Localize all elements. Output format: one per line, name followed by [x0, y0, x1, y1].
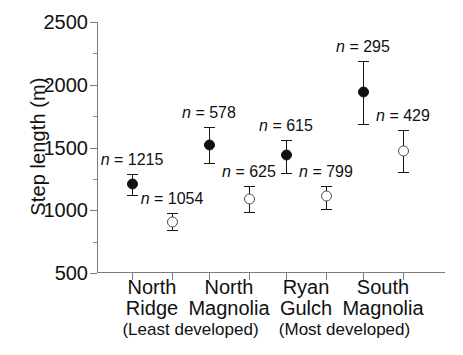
data-point-filled: n = 1215 [132, 22, 133, 273]
y-tick-label: 1500 [44, 136, 89, 159]
error-bar-cap-lower [204, 163, 215, 164]
y-minor-tick [93, 179, 97, 180]
y-tick-label: 1000 [44, 199, 89, 222]
category-label: RyanGulch [280, 277, 332, 319]
plot-area: 5001000150020002500 n = 1215n = 578n = 6… [97, 22, 445, 273]
y-axis-line [97, 22, 98, 273]
y-tick [90, 148, 97, 149]
error-bar-cap-upper [127, 174, 138, 175]
category-label-line: Magnolia [188, 298, 269, 319]
category-label: NorthRidge [126, 277, 178, 319]
y-tick [90, 85, 97, 86]
y-tick-label: 2000 [44, 73, 89, 96]
error-bar-cap-upper [167, 213, 178, 214]
y-minor-tick [93, 53, 97, 54]
error-bar-cap-upper [358, 61, 369, 62]
sample-size-label: n = 625 [222, 163, 276, 181]
data-point-filled: n = 295 [363, 22, 364, 273]
marker-filled-circle [127, 178, 138, 189]
data-point-open: n = 429 [403, 22, 404, 273]
error-bar-cap-lower [358, 124, 369, 125]
error-bar-cap-lower [398, 172, 409, 173]
error-bar-cap-upper [398, 130, 409, 131]
error-bar-cap-upper [321, 186, 332, 187]
development-annotation: (Least developed) [122, 320, 258, 340]
sample-size-label: n = 429 [376, 107, 430, 125]
marker-open-circle [398, 146, 409, 157]
data-point-filled: n = 615 [286, 22, 287, 273]
category-label: SouthMagnolia [342, 277, 423, 319]
data-point-filled: n = 578 [209, 22, 210, 273]
marker-filled-circle [204, 139, 215, 150]
error-bar-cap-lower [127, 195, 138, 196]
error-bar-cap-lower [281, 173, 292, 174]
y-tick-label: 500 [55, 262, 88, 285]
y-tick-label: 2500 [44, 11, 89, 34]
y-tick [90, 210, 97, 211]
error-bar-cap-upper [281, 140, 292, 141]
marker-open-circle [244, 193, 255, 204]
category-label: NorthMagnolia [188, 277, 269, 319]
development-annotation: (Most developed) [279, 320, 410, 340]
category-label-line: South [342, 277, 423, 298]
sample-size-label: n = 578 [182, 104, 236, 122]
marker-filled-circle [358, 86, 369, 97]
figure: Step length (m) 5001000150020002500 n = … [0, 0, 463, 355]
category-label-line: Magnolia [342, 298, 423, 319]
x-axis-line [97, 272, 445, 273]
error-bar-cap-lower [167, 230, 178, 231]
category-label-line: Ryan [280, 277, 332, 298]
marker-filled-circle [281, 150, 292, 161]
error-bar-cap-lower [321, 209, 332, 210]
y-minor-tick [93, 242, 97, 243]
y-tick [90, 273, 97, 274]
category-label-line: North [126, 277, 178, 298]
category-label-line: North [188, 277, 269, 298]
marker-open-circle [321, 191, 332, 202]
data-point-open: n = 1054 [172, 22, 173, 273]
sample-size-label: n = 799 [299, 163, 353, 181]
error-bar-cap-upper [204, 127, 215, 128]
y-tick [90, 22, 97, 23]
sample-size-label: n = 295 [336, 38, 390, 56]
data-point-open: n = 625 [249, 22, 250, 273]
data-point-open: n = 799 [326, 22, 327, 273]
category-label-group: NorthRidgeNorthMagnoliaRyanGulchSouthMag… [97, 277, 445, 355]
y-minor-tick [93, 116, 97, 117]
sample-size-label: n = 1054 [141, 190, 204, 208]
category-label-line: Gulch [280, 298, 332, 319]
marker-open-circle [167, 216, 178, 227]
category-label-line: Ridge [126, 298, 178, 319]
error-bar-cap-upper [244, 186, 255, 187]
sample-size-label: n = 615 [259, 117, 313, 135]
error-bar-cap-lower [244, 212, 255, 213]
sample-size-label: n = 1215 [101, 151, 164, 169]
